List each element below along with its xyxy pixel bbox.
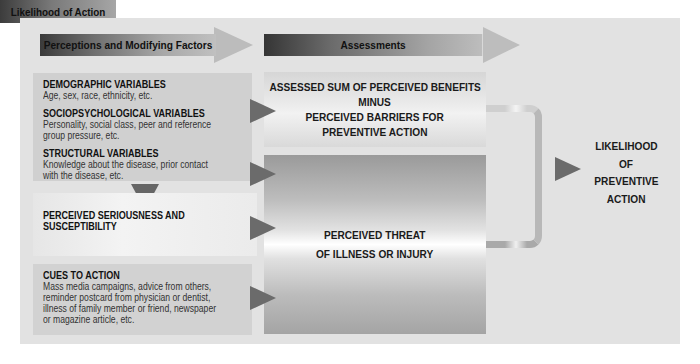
arrow-right-icon bbox=[250, 216, 276, 240]
demographic-title: DEMOGRAPHIC VARIABLES bbox=[43, 79, 166, 90]
cues-title: CUES TO ACTION bbox=[43, 270, 120, 281]
cues-to-action-box: CUES TO ACTION Mass media campaigns, adv… bbox=[33, 264, 252, 335]
modifying-factors-box: DEMOGRAPHIC VARIABLES Age, sex, race, et… bbox=[33, 73, 252, 181]
arrow-right-icon bbox=[250, 99, 276, 123]
header-perceptions: Perceptions and Modifying Factors bbox=[40, 34, 216, 56]
cues-line-1: Mass media campaigns, advice from others… bbox=[43, 281, 211, 292]
demographic-text: Age, sex, race, ethnicity, etc. bbox=[43, 90, 152, 101]
header-likelihood-label: Likelihood of Action bbox=[11, 6, 106, 18]
bracket-highlight-bottom bbox=[505, 241, 527, 248]
structural-title: STRUCTURAL VARIABLES bbox=[43, 148, 159, 159]
benefits-minus-barriers-box: ASSESSED SUM OF PERCEIVED BENEFITS MINUS… bbox=[264, 72, 486, 147]
cues-line-3: illness of family member or friend, news… bbox=[43, 303, 216, 314]
threat-line-1: PERCEIVED THREAT bbox=[324, 226, 426, 245]
perceived-threat-box: PERCEIVED THREAT OF ILLNESS OR INJURY bbox=[264, 155, 486, 334]
outcome-line-4: ACTION bbox=[607, 191, 646, 209]
outcome-line-2: OF bbox=[619, 156, 633, 174]
assessment-line-1: ASSESSED SUM OF PERCEIVED BENEFITS bbox=[269, 80, 480, 95]
header-arrow-head-perceptions bbox=[214, 27, 253, 63]
assessment-line-3: PERCEIVED BARRIERS FOR bbox=[306, 110, 444, 125]
header-perceptions-label: Perceptions and Modifying Factors bbox=[44, 39, 213, 51]
perceived-seriousness-box: PERCEIVED SERIOUSNESS AND SUSCEPTIBILITY bbox=[33, 193, 257, 256]
cues-line-2: reminder postcard from physician or dent… bbox=[43, 292, 210, 303]
seriousness-line-2: SUSCEPTIBILITY bbox=[43, 221, 117, 232]
structural-variables: STRUCTURAL VARIABLES Knowledge about the… bbox=[43, 148, 252, 181]
threat-line-2: OF ILLNESS OR INJURY bbox=[316, 245, 433, 264]
demographic-variables: DEMOGRAPHIC VARIABLES Age, sex, race, et… bbox=[43, 79, 252, 101]
bracket-connector bbox=[486, 105, 542, 248]
header-arrow-head-assessments bbox=[483, 27, 520, 63]
outcome-line-3: PREVENTIVE bbox=[594, 173, 658, 191]
bracket-highlight-top bbox=[505, 105, 527, 112]
likelihood-of-preventive-action: LIKELIHOOD OF PREVENTIVE ACTION bbox=[585, 138, 667, 208]
sociopsychological-title: SOCIOPSYCHOLOGICAL VARIABLES bbox=[43, 108, 205, 119]
sociopsychological-variables: SOCIOPSYCHOLOGICAL VARIABLES Personality… bbox=[43, 108, 252, 141]
assessment-line-4: PREVENTIVE ACTION bbox=[322, 125, 427, 140]
arrow-right-icon bbox=[555, 157, 581, 181]
arrow-right-icon bbox=[250, 162, 276, 186]
cues-line-4: or magazine article, etc. bbox=[43, 314, 134, 325]
header-assessments-label: Assessments bbox=[340, 39, 405, 51]
sociopsychological-text-1: Personality, social class, peer and refe… bbox=[43, 119, 211, 130]
outcome-line-1: LIKELIHOOD bbox=[595, 138, 657, 156]
header-assessments: Assessments bbox=[264, 34, 482, 56]
structural-text-1: Knowledge about the disease, prior conta… bbox=[43, 159, 208, 170]
arrow-right-icon bbox=[250, 286, 276, 310]
sociopsychological-text-2: group pressure, etc. bbox=[43, 130, 119, 141]
assessment-line-2: MINUS bbox=[359, 95, 392, 110]
structural-text-2: with the disease, etc. bbox=[43, 170, 123, 181]
